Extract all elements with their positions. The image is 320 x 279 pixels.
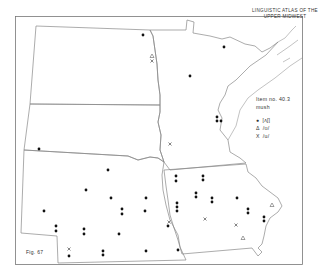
legend-label: /ʊ/ [263, 124, 270, 132]
legend-entry-dot: ● [ʌʃ] [256, 116, 290, 124]
state-iowa [164, 164, 282, 256]
dot-markers [38, 34, 266, 258]
cross-markers [68, 60, 238, 251]
cross-icon: X [256, 132, 260, 140]
legend-word: mush [256, 103, 290, 111]
legend-entry-cross: X /u/ [256, 132, 290, 140]
atlas-title-line2: UPPER MIDWEST [252, 14, 318, 20]
state-north-dakota [30, 26, 160, 105]
state-nebraska [21, 150, 186, 263]
map-legend: Item no. 40.3 mush ● [ʌʃ] Δ /ʊ/ X /u/ [256, 95, 290, 140]
figure-label: Fig. 67 [26, 249, 43, 255]
atlas-title: LINGUISTIC ATLAS OF THE UPPER MIDWEST [252, 8, 318, 20]
map-frame [16, 17, 303, 265]
state-south-dakota [24, 104, 164, 162]
legend-label: [ʌʃ] [262, 116, 270, 124]
legend-item-number: Item no. 40.3 [256, 95, 290, 103]
legend-label: /u/ [263, 132, 270, 140]
legend-entry-triangle: Δ /ʊ/ [256, 124, 290, 132]
dot-icon: ● [256, 116, 259, 124]
triangle-icon: Δ [256, 124, 260, 132]
triangle-markers [150, 54, 274, 240]
